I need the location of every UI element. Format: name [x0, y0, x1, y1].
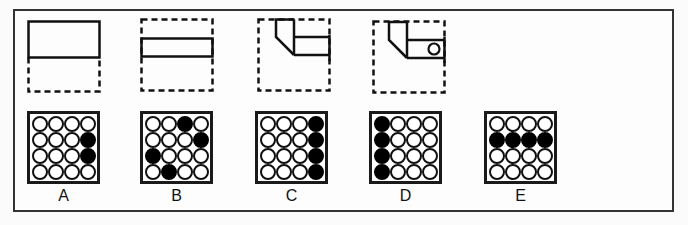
- empty-dot-icon: [390, 116, 406, 132]
- filled-dot-icon: [177, 116, 193, 132]
- empty-dot-icon: [537, 164, 553, 180]
- empty-dot-icon: [145, 164, 161, 180]
- option-d-label: D: [369, 187, 442, 205]
- empty-dot-icon: [193, 164, 209, 180]
- empty-dot-icon: [537, 148, 553, 164]
- empty-dot-icon: [390, 132, 406, 148]
- empty-dot-icon: [489, 148, 505, 164]
- empty-dot-icon: [505, 164, 521, 180]
- figure-3: [259, 20, 330, 91]
- empty-dot-icon: [145, 132, 161, 148]
- empty-dot-icon: [276, 164, 292, 180]
- figure-4: [374, 22, 445, 93]
- option-e-label: E: [484, 187, 557, 205]
- empty-dot-icon: [292, 148, 308, 164]
- empty-dot-icon: [260, 132, 276, 148]
- empty-dot-icon: [276, 132, 292, 148]
- empty-dot-icon: [537, 116, 553, 132]
- empty-dot-icon: [276, 116, 292, 132]
- empty-dot-icon: [177, 132, 193, 148]
- empty-dot-icon: [80, 164, 96, 180]
- option-a-grid[interactable]: [27, 111, 100, 184]
- empty-dot-icon: [64, 164, 80, 180]
- empty-dot-icon: [390, 164, 406, 180]
- empty-dot-icon: [260, 116, 276, 132]
- empty-dot-icon: [390, 148, 406, 164]
- figure-2: [142, 20, 213, 91]
- circle-icon: [429, 44, 440, 55]
- filled-dot-icon: [80, 132, 96, 148]
- filled-dot-icon: [374, 164, 390, 180]
- filled-dot-icon: [308, 164, 324, 180]
- empty-dot-icon: [406, 164, 422, 180]
- empty-dot-icon: [161, 116, 177, 132]
- empty-dot-icon: [406, 132, 422, 148]
- filled-dot-icon: [80, 148, 96, 164]
- empty-dot-icon: [292, 164, 308, 180]
- option-c-label: C: [255, 187, 328, 205]
- empty-dot-icon: [177, 148, 193, 164]
- filled-dot-icon: [308, 116, 324, 132]
- sequence-figures: [0, 0, 688, 225]
- empty-dot-icon: [422, 116, 438, 132]
- empty-dot-icon: [489, 164, 505, 180]
- empty-dot-icon: [260, 164, 276, 180]
- empty-dot-icon: [32, 116, 48, 132]
- empty-dot-icon: [177, 164, 193, 180]
- filled-dot-icon: [145, 148, 161, 164]
- option-c-grid[interactable]: [255, 111, 328, 184]
- filled-dot-icon: [308, 148, 324, 164]
- empty-dot-icon: [64, 148, 80, 164]
- empty-dot-icon: [406, 116, 422, 132]
- filled-dot-icon: [193, 132, 209, 148]
- filled-dot-icon: [537, 132, 553, 148]
- empty-dot-icon: [406, 148, 422, 164]
- empty-dot-icon: [489, 116, 505, 132]
- filled-dot-icon: [521, 132, 537, 148]
- empty-dot-icon: [48, 132, 64, 148]
- filled-dot-icon: [374, 116, 390, 132]
- option-b-grid[interactable]: [140, 111, 213, 184]
- empty-dot-icon: [521, 148, 537, 164]
- empty-dot-icon: [193, 116, 209, 132]
- filled-dot-icon: [374, 132, 390, 148]
- option-b-label: B: [140, 187, 213, 205]
- filled-dot-icon: [308, 132, 324, 148]
- empty-dot-icon: [64, 132, 80, 148]
- filled-dot-icon: [374, 148, 390, 164]
- empty-dot-icon: [145, 116, 161, 132]
- empty-dot-icon: [32, 148, 48, 164]
- empty-dot-icon: [64, 116, 80, 132]
- filled-dot-icon: [505, 132, 521, 148]
- empty-dot-icon: [80, 116, 96, 132]
- figure-1: [29, 22, 100, 92]
- option-a-label: A: [27, 187, 100, 205]
- empty-dot-icon: [48, 148, 64, 164]
- empty-dot-icon: [521, 164, 537, 180]
- empty-dot-icon: [276, 148, 292, 164]
- empty-dot-icon: [48, 164, 64, 180]
- empty-dot-icon: [48, 116, 64, 132]
- empty-dot-icon: [292, 132, 308, 148]
- empty-dot-icon: [505, 116, 521, 132]
- empty-dot-icon: [260, 148, 276, 164]
- empty-dot-icon: [505, 148, 521, 164]
- option-e-grid[interactable]: [484, 111, 557, 184]
- empty-dot-icon: [161, 132, 177, 148]
- filled-dot-icon: [161, 164, 177, 180]
- empty-dot-icon: [161, 148, 177, 164]
- empty-dot-icon: [422, 148, 438, 164]
- filled-dot-icon: [489, 132, 505, 148]
- empty-dot-icon: [521, 116, 537, 132]
- empty-dot-icon: [422, 164, 438, 180]
- empty-dot-icon: [292, 116, 308, 132]
- empty-dot-icon: [32, 132, 48, 148]
- empty-dot-icon: [422, 132, 438, 148]
- option-d-grid[interactable]: [369, 111, 442, 184]
- empty-dot-icon: [193, 148, 209, 164]
- empty-dot-icon: [32, 164, 48, 180]
